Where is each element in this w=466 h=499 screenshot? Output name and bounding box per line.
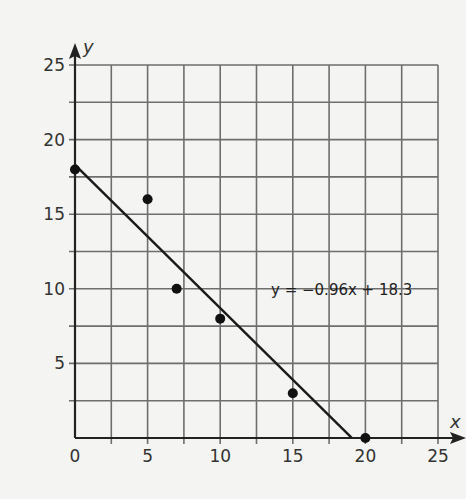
y-tick-label: 5 — [54, 353, 65, 373]
x-tick-label: 0 — [70, 446, 81, 466]
trendline — [75, 165, 352, 438]
y-tick-label: 15 — [43, 204, 65, 224]
y-tick-label: 20 — [43, 130, 65, 150]
x-tick-label: 20 — [355, 446, 377, 466]
trendline-equation-label: y = −0.96x + 18.3 — [271, 281, 412, 299]
x-tick-label: 25 — [427, 446, 449, 466]
y-tick-label: 25 — [43, 55, 65, 75]
data-point — [215, 314, 225, 324]
data-point — [143, 194, 153, 204]
data-point — [288, 388, 298, 398]
y-tick-label: 10 — [43, 279, 65, 299]
data-point — [70, 164, 80, 174]
data-point — [360, 433, 370, 443]
data-point — [172, 284, 182, 294]
x-tick-label: 10 — [209, 446, 231, 466]
scatter-chart: xy0510152025510152025y = −0.96x + 18.3 — [0, 0, 466, 499]
x-tick-label: 5 — [142, 446, 153, 466]
x-axis-label: x — [449, 411, 461, 432]
y-axis-label: y — [82, 36, 94, 57]
x-tick-label: 15 — [282, 446, 304, 466]
